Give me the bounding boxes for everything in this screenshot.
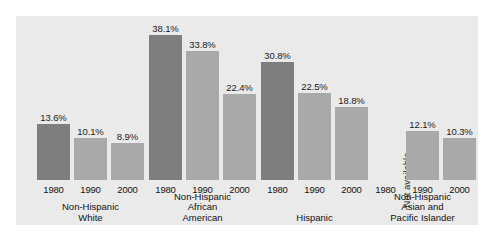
bar-rect [223, 94, 256, 180]
group-category-line: African [146, 202, 259, 213]
bar-value-label: 12.1% [409, 119, 435, 130]
group-category-line: American [146, 213, 259, 224]
bar-slot: Not available [369, 16, 402, 180]
bar-value-label: 8.9% [117, 131, 138, 142]
bar-slot: 10.1% [74, 16, 107, 180]
bar-value-label: 10.3% [446, 126, 472, 137]
years-row: 1980 1990 2000 [258, 184, 371, 195]
bar-slot: 22.5% [298, 16, 331, 180]
bars-row: Not available 12.1% 10.3% [366, 16, 479, 180]
bar-value-label: 18.8% [338, 95, 364, 106]
bar-value-label: 10.1% [77, 126, 103, 137]
bar-value-label: 30.8% [264, 50, 290, 61]
bar-rect [298, 93, 331, 180]
bar-value-label: 22.5% [301, 81, 327, 92]
bar-slot: 12.1% [406, 16, 439, 180]
bar-rect [111, 143, 144, 180]
chart-panel: 13.6% 10.1% 8.9% 1980 1990 2000 Non-Hisp… [16, 16, 478, 225]
group-category-line: Non-Hispanic [34, 202, 147, 213]
year-tick-label: 2000 [111, 184, 144, 195]
bar-group-hispanic: 30.8% 22.5% 18.8% 1980 1990 2000 Hispani… [258, 16, 371, 225]
bar-value-label: 22.4% [226, 82, 252, 93]
not-available-wrapper: Not available [369, 16, 402, 180]
year-tick-label: 2000 [335, 184, 368, 195]
bar-slot: 38.1% [149, 16, 182, 180]
bar-rect [261, 62, 294, 180]
bar-rect [149, 35, 182, 180]
group-category-line: Pacific Islander [366, 213, 479, 224]
year-tick-label: 1990 [298, 184, 331, 195]
bar-rect [74, 138, 107, 180]
group-category-line: Asian and [366, 202, 479, 213]
bar-value-label: 38.1% [152, 23, 178, 34]
bar-rect [37, 124, 70, 180]
year-tick-label: 1980 [261, 184, 294, 195]
group-category-label: Non-Hispanic White [34, 202, 147, 223]
group-category-line: White [34, 213, 147, 224]
bar-slot: 18.8% [335, 16, 368, 180]
bar-group-non-hispanic-african-american: 38.1% 33.8% 22.4% 1980 1990 2000 Non-His… [146, 16, 259, 225]
year-tick-label: 1990 [74, 184, 107, 195]
bar-slot: 8.9% [111, 16, 144, 180]
bar-rect [335, 107, 368, 180]
bar-value-label: 33.8% [189, 39, 215, 50]
group-category-line: Hispanic [258, 213, 371, 224]
bar-rect [406, 131, 439, 180]
bar-slot: 22.4% [223, 16, 256, 180]
group-category-label: Non-Hispanic African American [146, 192, 259, 224]
bars-row: 38.1% 33.8% 22.4% [146, 16, 259, 180]
bar-slot: 30.8% [261, 16, 294, 180]
bars-row: 30.8% 22.5% 18.8% [258, 16, 371, 180]
bar-group-non-hispanic-asian-pacific-islander: Not available 12.1% 10.3% 1980 1990 2000… [366, 16, 479, 225]
bar-slot: 10.3% [443, 16, 476, 180]
bars-row: 13.6% 10.1% 8.9% [34, 16, 147, 180]
bar-group-non-hispanic-white: 13.6% 10.1% 8.9% 1980 1990 2000 Non-Hisp… [34, 16, 147, 225]
years-row: 1980 1990 2000 [34, 184, 147, 195]
bar-value-label: 13.6% [40, 112, 66, 123]
year-tick-label: 1980 [37, 184, 70, 195]
bar-rect [443, 138, 476, 180]
bar-slot: 33.8% [186, 16, 219, 180]
bar-slot: 13.6% [37, 16, 70, 180]
bar-rect [186, 51, 219, 180]
group-category-label: Hispanic [258, 213, 371, 224]
group-category-label: Non-Hispanic Asian and Pacific Islander [366, 192, 479, 224]
